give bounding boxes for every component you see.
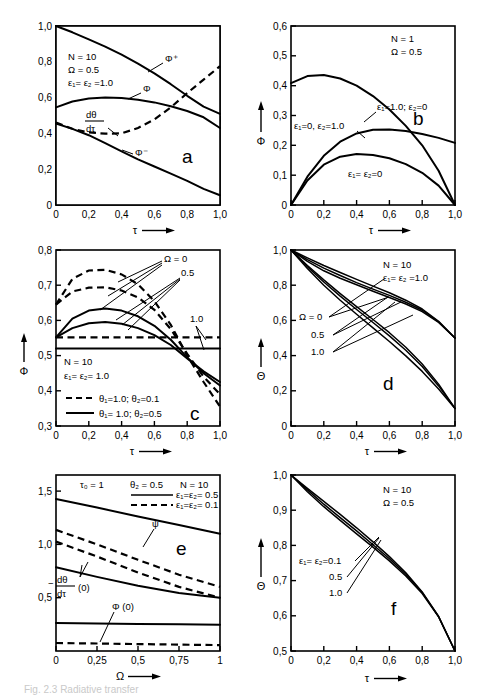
x-tick-c-4: 0,8 (180, 430, 194, 441)
legend-e: ε₁=ε₂= 0.5 ε₁=ε₂= 0.1 (131, 489, 218, 510)
curve-label-f-0: ε₁= ε₂=0.1 (299, 555, 341, 566)
x-axis-label-a: τ (133, 224, 138, 236)
annotation-a-1: Ω = 0.5 (68, 64, 99, 75)
curve-label-e-phi0: Φ (0) (112, 601, 134, 612)
y-tick-d-5: 1,0 (273, 245, 287, 256)
x-tick-c-0: 0 (53, 430, 59, 441)
x-tick-b-0: 0 (288, 209, 294, 220)
x-axis-c: 0 0,2 0,4 0,6 0,8 1,0 (53, 421, 227, 441)
y-tick-f-3: 0,8 (273, 540, 287, 551)
x-axis-arrow-b (378, 228, 411, 234)
svg-text:(0): (0) (78, 582, 90, 593)
x-axis-e: 0 0,25 0,5 0,75 1 (53, 646, 223, 666)
x-tick-d-1: 0,2 (317, 430, 331, 441)
x-tick-e-0: 0 (53, 655, 59, 666)
x-tick-e-3: 0,75 (169, 655, 189, 666)
y-axis-label-d: Θ (257, 370, 266, 382)
y-tick-f-4: 0,9 (273, 505, 287, 516)
annotation-c-1: ε₁= ε₂= 1.0 (64, 370, 109, 381)
y-axis-label-f: Θ (257, 580, 266, 592)
annotation-e-0: τ₀ = 1 (80, 479, 104, 490)
y-tick-d-3: 0,6 (273, 315, 287, 326)
y-tick-b-4: 0,4 (273, 80, 287, 91)
x-tick-e-4: 1 (217, 655, 223, 666)
curve-label-b-2: ε₁= ε₂=0 (348, 168, 382, 179)
x-axis-label-e: Ω (116, 670, 124, 682)
y-tick-b-0: 0 (281, 200, 287, 211)
curve-label-e-psi: ψ (152, 518, 159, 529)
curve-label-a-phi: Φ (143, 83, 151, 94)
panel-f: 0,5 0,6 0,7 0,8 0,9 1,0 0 0,2 0,4 0,6 0,… (243, 465, 485, 698)
x-tick-b-2: 0,4 (350, 209, 364, 220)
y-tick-c-3: 0,6 (38, 315, 52, 326)
x-axis-arrow-c (139, 449, 172, 455)
x-axis-f: 0 0,2 0,4 0,6 0,8 1,0 (288, 646, 462, 666)
y-tick-e-1: 1,0 (38, 539, 52, 550)
x-tick-d-3: 0,6 (382, 430, 396, 441)
y-tick-f-5: 1,0 (273, 470, 287, 481)
y-tick-d-1: 0,2 (273, 385, 287, 396)
curve-label-c-0: Ω = 0 (164, 253, 187, 264)
figure-root: 0 0,2 0,4 0,6 0,8 1,0 0 0,2 0,4 0,6 0,8 (0, 0, 485, 698)
annotation-a-0: N = 10 (68, 51, 96, 62)
annotation-e-1: θ₂ = 0.5 (130, 479, 163, 490)
y-tick-b-1: 0,1 (273, 170, 287, 181)
panel-letter-e: e (176, 538, 187, 559)
x-axis-d: 0 0,2 0,4 0,6 0,8 1,0 (288, 421, 462, 441)
y-tick-e-2: 1,5 (38, 486, 52, 497)
panel-letter-a: a (182, 146, 193, 167)
series-d-omega05-upper (291, 250, 455, 338)
series-e-phi0-e01 (56, 643, 220, 645)
y-tick-a-5: 1,0 (38, 21, 52, 32)
panel-letter-b: b (413, 108, 424, 129)
svg-text:dθ: dθ (57, 574, 68, 585)
annotation-c-0: N = 10 (64, 356, 92, 367)
x-tick-f-4: 0,8 (415, 655, 429, 666)
svg-text:−: − (48, 578, 54, 589)
panel-c: 0,3 0,4 0,5 0,6 0,7 0,8 0 0,2 0,4 0,6 0,… (0, 240, 243, 470)
series-b-e1-1-e2-0 (291, 75, 455, 205)
legend-c-0-label: θ₁=1.0; θ₂=0.1 (99, 393, 159, 404)
x-axis-arrow-e (128, 674, 161, 680)
curve-label-c-2: 1.0 (190, 313, 203, 324)
x-tick-f-1: 0,2 (317, 655, 331, 666)
x-axis-arrow-d (374, 449, 407, 455)
x-tick-c-5: 1,0 (213, 430, 227, 441)
y-axis-d: 0 0,2 0,4 0,6 0,8 1,0 (273, 245, 296, 432)
panel-d: 0 0,2 0,4 0,6 0,8 1,0 0 0,2 0,4 0,6 0,8 … (243, 240, 485, 470)
y-tick-d-2: 0,4 (273, 350, 287, 361)
svg-text:dθ: dθ (86, 109, 97, 120)
curve-label-f-2: 1.0 (329, 587, 342, 598)
x-tick-e-2: 0,5 (131, 655, 145, 666)
figure-caption: Fig. 2.3 Radiative transfer (24, 684, 139, 695)
y-tick-a-3: 0,6 (38, 92, 52, 103)
y-tick-c-4: 0,7 (38, 280, 52, 291)
x-tick-a-5: 1,0 (213, 209, 227, 220)
annotation-b-1: Ω = 0.5 (391, 46, 422, 57)
y-tick-a-1: 0,2 (38, 164, 52, 175)
y-tick-c-0: 0,3 (38, 421, 52, 432)
y-tick-c-1: 0,4 (38, 385, 52, 396)
y-tick-d-4: 0,8 (273, 280, 287, 291)
annotation-b-0: N = 1 (391, 33, 414, 44)
y-tick-f-0: 0,5 (273, 646, 287, 657)
x-axis-arrow-f (374, 676, 407, 682)
curve-label-d-0: Ω = 0 (299, 311, 322, 322)
x-tick-d-4: 0,8 (415, 430, 429, 441)
annotation-a-2: ε₁= ε₂ =1.0 (68, 77, 113, 88)
x-tick-f-5: 1,0 (448, 655, 462, 666)
y-tick-f-1: 0,6 (273, 610, 287, 621)
x-tick-f-0: 0 (288, 655, 294, 666)
y-tick-c-2: 0,5 (38, 350, 52, 361)
x-tick-b-3: 0,6 (382, 209, 396, 220)
curve-label-e-dtheta: − dθ dτ (0) (48, 574, 90, 599)
y-axis-b: 0 0,1 0,2 0,3 0,4 0,5 0,6 (273, 21, 296, 211)
x-tick-b-1: 0,2 (317, 209, 331, 220)
x-tick-f-2: 0,4 (350, 655, 364, 666)
x-tick-f-3: 0,6 (382, 655, 396, 666)
series-e-phi0-e05 (56, 623, 220, 625)
x-tick-a-2: 0,4 (115, 209, 129, 220)
annotation-f-0: N = 10 (383, 484, 411, 495)
y-tick-b-2: 0,2 (273, 140, 287, 151)
y-tick-b-3: 0,3 (273, 110, 287, 121)
